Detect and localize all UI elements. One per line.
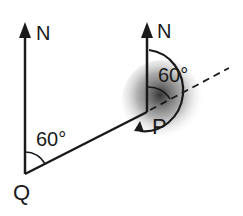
angle-label-q: 60° <box>36 128 66 150</box>
north-label-q: N <box>36 22 50 44</box>
bearing-diagram: N N 60° 60° P Q <box>0 0 243 216</box>
north-label-p: N <box>157 20 171 42</box>
point-label-p: P <box>152 114 167 139</box>
point-label-q: Q <box>13 180 30 205</box>
angle-arc-q <box>25 152 45 164</box>
angle-label-p: 60° <box>158 64 188 86</box>
north-arrow-q <box>19 22 31 174</box>
